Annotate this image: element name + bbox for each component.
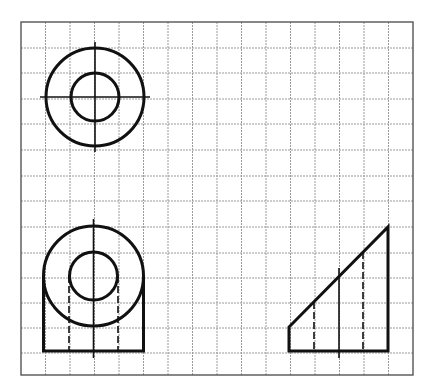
top-view <box>40 42 150 152</box>
drawing-canvas <box>0 0 431 388</box>
front-view <box>44 219 144 358</box>
grid-lines <box>21 22 413 375</box>
side-view <box>289 227 388 358</box>
